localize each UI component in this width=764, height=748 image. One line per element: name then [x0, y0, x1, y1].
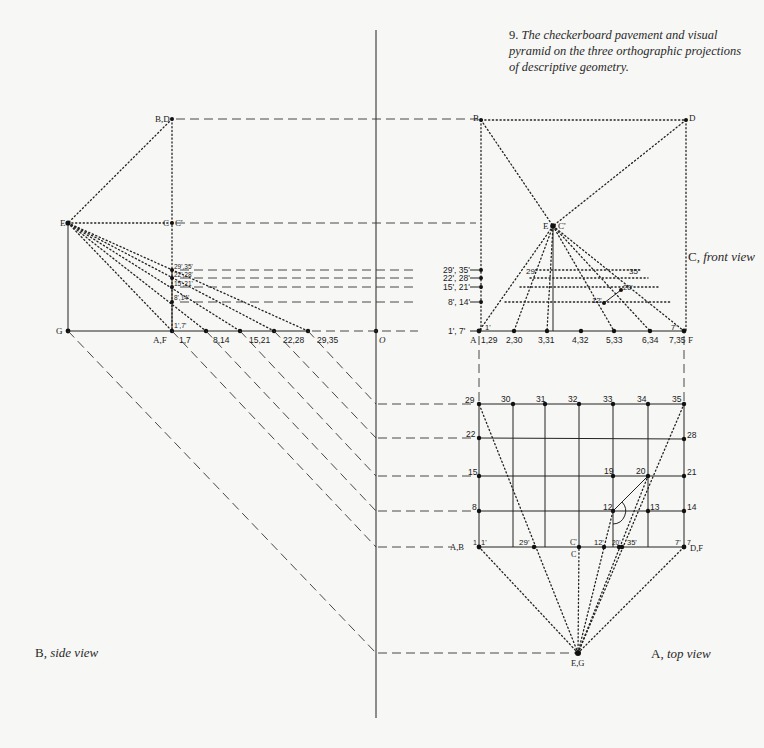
label: C' [570, 538, 577, 547]
label-O: O [379, 335, 386, 345]
label-G: G [56, 326, 63, 336]
label: 1' [485, 323, 491, 332]
label: 2,30 [506, 335, 523, 345]
label: 15',21' [174, 280, 193, 287]
label: 13 [650, 502, 660, 512]
point [477, 402, 481, 406]
point [682, 437, 686, 441]
projector [240, 331, 376, 476]
label: 8,14 [213, 335, 230, 345]
horizontal-projectors: 29', 35' 22', 28' 15', 21' 8', 14' 1', 7… [176, 119, 479, 336]
label: 12 [603, 502, 613, 512]
label: 12' [594, 538, 604, 547]
projector [274, 331, 376, 438]
label: 35' [629, 267, 640, 276]
point [532, 545, 536, 549]
diagonal [553, 120, 686, 226]
label-C-prime: C' [558, 221, 566, 231]
label: 29 [465, 395, 475, 405]
label: 1,7 [179, 335, 191, 345]
projector [308, 331, 376, 404]
label: 35 [672, 394, 682, 404]
point [479, 268, 483, 272]
point [577, 545, 581, 549]
point [682, 509, 686, 513]
visual-ray [479, 547, 578, 653]
grid-line [479, 438, 684, 439]
point-BD [170, 117, 174, 121]
label: 8', 14' [448, 297, 471, 307]
label: 3,31 [538, 335, 555, 345]
point [682, 545, 687, 550]
point [477, 436, 481, 440]
label: 7' [671, 323, 677, 332]
point [479, 276, 483, 280]
point [545, 329, 549, 333]
label-BD: B,D [155, 114, 170, 124]
label: 35' [627, 538, 637, 547]
label: 34 [637, 394, 647, 404]
label-E: E [60, 218, 66, 228]
label: 8',14' [174, 294, 189, 301]
label: 22 [466, 429, 476, 439]
label-AB: A,B [450, 542, 464, 552]
diagonal [481, 120, 553, 226]
label-EG: E,G [571, 658, 584, 668]
label: 30 [501, 394, 511, 404]
label-E: E [543, 221, 549, 231]
label: 29' [519, 538, 530, 547]
label: 31 [536, 394, 546, 404]
point [579, 329, 583, 333]
label: 1', 7' [448, 326, 466, 336]
label: 4,32 [572, 335, 589, 345]
point [512, 329, 516, 333]
point-A [477, 329, 482, 334]
point [682, 474, 686, 478]
label: 19 [604, 466, 614, 476]
label: 29',35' [174, 263, 193, 270]
label-A: A [470, 335, 477, 345]
visual-ray [68, 223, 172, 331]
projector [206, 331, 376, 511]
label-F: F [688, 335, 693, 345]
label: 1,29 [481, 335, 498, 345]
point-EG [575, 650, 581, 656]
label-AF: A,F [153, 335, 167, 345]
sight-line [68, 119, 172, 223]
label: 7,35 [669, 335, 686, 345]
label: 20' [623, 283, 633, 292]
label: 29' [526, 267, 537, 276]
point [682, 402, 686, 406]
label: 1' [481, 538, 487, 547]
front-view: B D E C' A F 1,29 2,30 3,31 4,32 5,33 6,… [470, 113, 696, 345]
label: 14 [687, 502, 697, 512]
diagonal-projectors [68, 331, 576, 653]
point [648, 329, 652, 333]
label: 20 [636, 466, 646, 476]
visual-ray [578, 404, 684, 653]
label: 15 [468, 467, 478, 477]
projector [68, 331, 376, 653]
label: 12' [592, 296, 602, 305]
label-B: B [473, 113, 479, 123]
label: 5,33 [606, 335, 623, 345]
label: 32 [568, 394, 578, 404]
label: 33 [603, 394, 613, 404]
label: 20' [612, 539, 620, 546]
label: 15', 21' [443, 282, 470, 292]
visual-ray [578, 547, 684, 653]
label: 1 [473, 539, 477, 546]
point-F [682, 329, 687, 334]
point [479, 300, 483, 304]
point-B [479, 118, 483, 122]
point-12p [602, 301, 606, 305]
side-view: B,D E C C' G A,F O 1,7 8,14 15,21 22,28 … [56, 114, 386, 345]
projection-diagram: .solid { stroke: #222; stroke-width: 1; … [0, 0, 764, 748]
label: 7' [675, 538, 681, 547]
label: 6,34 [642, 335, 659, 345]
point [646, 474, 650, 478]
projector [172, 331, 376, 547]
label-DF: D,F [690, 543, 703, 553]
label-C: C [163, 218, 169, 228]
point-E [550, 223, 556, 229]
